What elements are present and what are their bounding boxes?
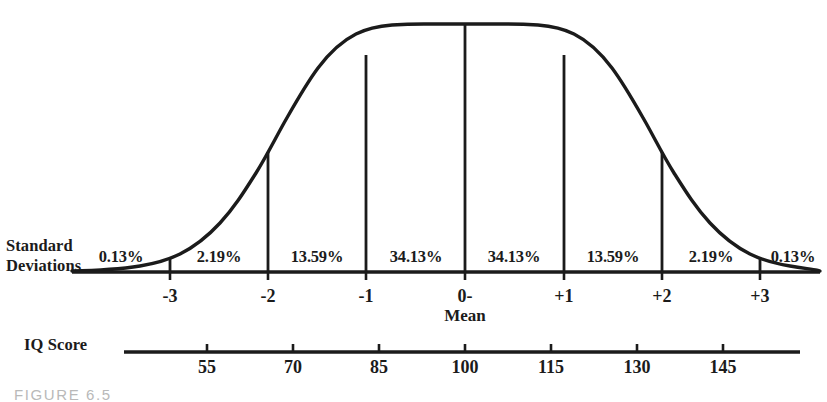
iq-tick-label-100: 100 xyxy=(452,358,479,376)
sd-tick-label-plus3: +3 xyxy=(750,287,769,305)
normal-distribution-figure: Standard Deviations 0.13% 2.19% 13.59% 3… xyxy=(0,0,827,402)
sd-tick-label-plus2: +2 xyxy=(652,287,671,305)
iq-tick-label-70: 70 xyxy=(284,358,302,376)
sd-tick-label-minus2: -2 xyxy=(261,287,276,305)
band-label-5: 13.59% xyxy=(587,249,639,266)
sd-tick-label-plus1: +1 xyxy=(554,287,573,305)
sd-tick-label-minus1: -1 xyxy=(359,287,374,305)
bell-curve-graphic xyxy=(0,0,827,402)
iq-axis-label: IQ Score xyxy=(24,337,87,354)
band-label-0: 0.13% xyxy=(99,249,143,266)
sd-tick-label-mean: 0- xyxy=(458,287,473,305)
iq-tick-label-115: 115 xyxy=(538,358,564,376)
band-label-7: 0.13% xyxy=(771,249,815,266)
sd-tick-label-minus3: -3 xyxy=(163,287,178,305)
band-label-4: 34.13% xyxy=(488,249,540,266)
iq-tick-label-130: 130 xyxy=(624,358,651,376)
sd-axis-label-line2: Deviations xyxy=(6,258,81,275)
figure-caption: FIGURE 6.5 xyxy=(14,386,112,402)
band-label-3: 34.13% xyxy=(390,249,442,266)
sd-axis-label-line1: Standard xyxy=(6,238,73,255)
bell-curve-path xyxy=(72,24,820,271)
band-label-6: 2.19% xyxy=(689,249,733,266)
band-label-1: 2.19% xyxy=(197,249,241,266)
iq-tick-label-55: 55 xyxy=(198,358,216,376)
iq-tick-label-85: 85 xyxy=(370,358,388,376)
mean-caption: Mean xyxy=(444,307,486,324)
iq-tick-label-145: 145 xyxy=(710,358,737,376)
band-label-2: 13.59% xyxy=(291,249,343,266)
